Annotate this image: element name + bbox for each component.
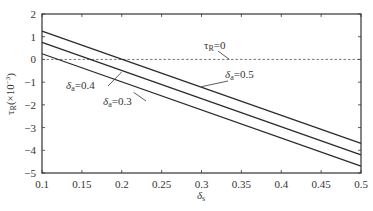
y-tick-label: −2 [24,99,36,111]
y-tick-label: −3 [24,122,36,134]
x-tick-label: 0.4 [274,178,288,190]
x-tick-label: 0.45 [312,178,332,190]
y-tick-label: −4 [24,144,36,156]
svg-text:τR=0: τR=0 [204,39,226,53]
annotation-delta-0.4: δa=0.4 [66,72,122,93]
annotation-leader [134,92,146,101]
annotation-leader [218,51,229,59]
y-tick-label: 2 [31,8,37,20]
data-series [42,31,361,166]
annotation-leader [108,72,122,86]
annotation-delta-0.5: δa=0.5 [202,68,255,87]
x-axis-label: δs [197,189,205,203]
y-tick-label: −1 [24,76,36,88]
x-tick-label: 0.35 [232,178,252,190]
svg-text:δa=0.3: δa=0.3 [103,95,132,109]
svg-text:δa=0.4: δa=0.4 [66,79,95,93]
annotation-leader [202,81,229,87]
y-tick-label: −5 [24,167,36,179]
y-axis-label: τR(×10−3) [4,73,18,115]
tick-labels: 0.10.150.20.250.30.350.40.450.5210−1−2−3… [24,8,368,190]
x-tick-label: 0.25 [152,178,172,190]
chart: 0.10.150.20.250.30.350.40.450.5210−1−2−3… [0,0,373,211]
x-tick-label: 0.5 [354,178,368,190]
y-tick-label: 1 [31,31,37,43]
x-tick-label: 0.15 [72,178,92,190]
x-tick-label: 0.2 [115,178,129,190]
annotation-tau-zero: τR=0 [204,39,229,59]
series-line [42,54,361,166]
y-tick-label: 0 [31,53,37,65]
svg-text:δa=0.5: δa=0.5 [225,68,254,82]
x-tick-label: 0.1 [35,178,49,190]
annotation-delta-0.3: δa=0.3 [103,92,146,109]
